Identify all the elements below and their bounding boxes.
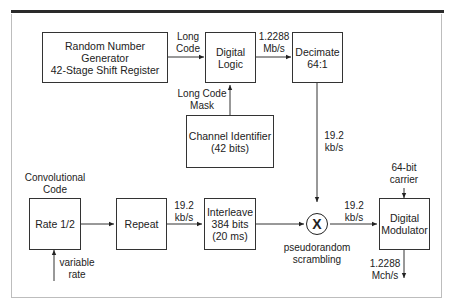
interleave-block: Interleave 384 bits (20 ms) [204, 198, 256, 250]
variable-rate-label: variable rate [58, 257, 96, 281]
interleave-label: Interleave 384 bits (20 ms) [207, 206, 253, 242]
rate-half-block: Rate 1/2 [29, 198, 81, 250]
rate-19-2-kbps-label-b: 19.2 kb/s [172, 200, 196, 224]
repeat-block: Repeat [116, 198, 167, 250]
digital-logic-label: Digital Logic [216, 46, 245, 70]
decimate-label: Decimate 64:1 [295, 46, 339, 70]
random-number-generator-block: Random Number Generator 42-Stage Shift R… [42, 32, 168, 83]
multiplier-x-icon: X [312, 216, 321, 232]
rate-label: Rate 1/2 [35, 218, 75, 230]
decimate-block: Decimate 64:1 [292, 32, 343, 83]
repeat-label: Repeat [125, 218, 159, 230]
carrier-label: 64-bit carrier [384, 162, 424, 186]
pseudorandom-scrambling-label: pseudorandom scrambling [281, 242, 353, 266]
channel-identifier-block: Channel Identifier (42 bits) [186, 115, 274, 168]
output-rate-label: 1.2288 Mch/s [368, 258, 402, 282]
rate-19-2-kbps-label-a: 19.2 kb/s [322, 130, 346, 154]
convolutional-code-label: Convolutional Code [22, 172, 88, 196]
long-code-mask-label: Long Code Mask [175, 88, 229, 112]
multiplier-symbol: X [306, 213, 328, 235]
digital-modulator-block: Digital Modulator [379, 198, 430, 250]
rate-1-2288-mbps-label: 1.2288 Mb/s [258, 31, 290, 55]
long-code-label: Long Code [174, 31, 202, 55]
modulator-label: Digital Modulator [381, 212, 428, 236]
rng-label: Random Number Generator 42-Stage Shift R… [43, 40, 167, 76]
digital-logic-block: Digital Logic [205, 32, 256, 83]
channel-identifier-label: Channel Identifier (42 bits) [189, 130, 271, 154]
rate-19-2-kbps-label-c: 19.2 kb/s [342, 200, 366, 224]
